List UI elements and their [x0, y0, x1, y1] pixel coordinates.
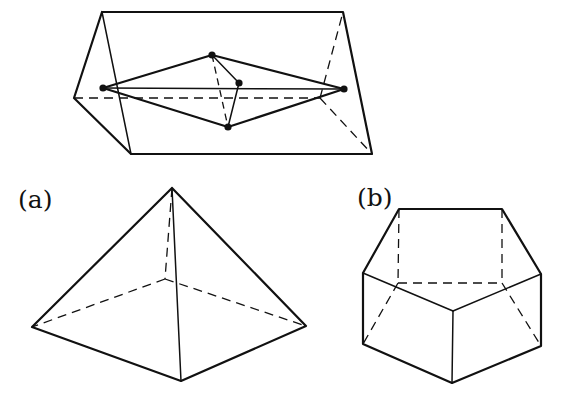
- label-a: (a): [18, 185, 52, 214]
- vertex-dot-left: [99, 84, 106, 91]
- vertex-dot-bottom: [224, 123, 231, 130]
- prism-b-hidden-left-bottom: [363, 283, 398, 344]
- bipyramid-outline: [103, 55, 344, 127]
- vertex-dot-right: [340, 85, 347, 92]
- prism-b-hidden-left-vertical: [398, 209, 399, 283]
- prism-hidden-right-down: [320, 98, 372, 154]
- bipyramid-hidden-axis: [212, 55, 228, 127]
- prism-b-top-right-front: [453, 274, 541, 311]
- bipyramid-middle-bottom: [228, 83, 239, 127]
- square-pyramid: [32, 188, 306, 381]
- label-b: (b): [357, 183, 393, 212]
- prism-b-hidden-right-bottom: [502, 283, 541, 346]
- pyramid-hidden-left: [32, 279, 165, 327]
- prism-b-top-left-front: [363, 273, 453, 311]
- bipyramid: [99, 51, 347, 130]
- pyramid-outline: [32, 188, 306, 381]
- pyramid-hidden-right: [165, 279, 306, 326]
- top-prism: [74, 12, 372, 154]
- pyramid-hidden-vertical: [165, 188, 172, 279]
- pentagonal-prism: [363, 209, 541, 383]
- prism-b-front-vertical: [452, 311, 453, 383]
- vertex-dot-top: [208, 51, 215, 58]
- bipyramid-equator: [103, 88, 344, 89]
- vertex-dot-middle: [235, 79, 242, 86]
- figure-canvas: (a) (b): [0, 0, 568, 412]
